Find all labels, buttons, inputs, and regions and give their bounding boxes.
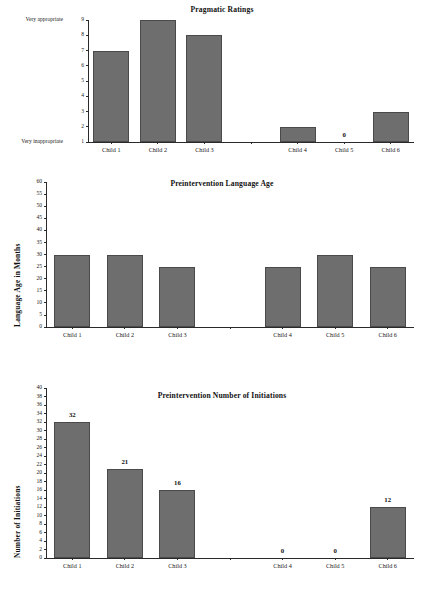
y-axis-tick-label: 10 <box>24 300 42 306</box>
y-axis-tick-label: 28 <box>24 436 42 442</box>
y-axis-label: Language Age in Months <box>13 244 22 327</box>
y-axis-tick-mark <box>44 507 46 508</box>
x-axis-tick-label: Child 5 <box>305 332 365 338</box>
y-axis-tick-label: 14 <box>24 496 42 502</box>
y-axis-tick-label: 10 <box>24 513 42 519</box>
y-axis-tick-mark <box>44 278 46 279</box>
y-axis-tick-mark <box>44 242 46 243</box>
x-axis-tick-label: Child 2 <box>95 563 155 569</box>
y-axis-tick-mark <box>44 194 46 195</box>
y-axis-tick-label: 15 <box>24 288 42 294</box>
y-axis-tick-mark <box>44 315 46 316</box>
y-axis-tick-mark <box>44 481 46 482</box>
y-axis-tick-label: 60 <box>24 179 42 185</box>
y-axis-tick-mark <box>86 35 88 36</box>
y-axis-tick-mark <box>44 464 46 465</box>
y-axis-tick-mark <box>86 111 88 112</box>
y-axis-tick-label: 25 <box>24 264 42 270</box>
y-axis-tick-label: 0 <box>24 324 42 330</box>
y-axis-tick-mark <box>86 50 88 51</box>
chart-title: Pragmatic Ratings <box>0 5 444 14</box>
y-axis-tick-label: 4 <box>24 538 42 544</box>
y-axis-tick-label: 24 <box>24 453 42 459</box>
y-axis-tick-mark <box>44 396 46 397</box>
y-axis-tick-mark <box>44 524 46 525</box>
x-axis-tick-label: Child 6 <box>358 332 418 338</box>
bar-value-label: 32 <box>42 412 102 419</box>
y-axis-tick-label: 38 <box>24 394 42 400</box>
bar <box>370 267 406 327</box>
y-axis-line <box>88 20 89 142</box>
y-axis-tick-mark <box>86 142 88 143</box>
y-axis-tick-label: 30 <box>24 252 42 258</box>
y-axis-tick-mark <box>44 254 46 255</box>
y-axis-tick-mark <box>44 206 46 207</box>
y-axis-tick-label: 6 <box>24 530 42 536</box>
y-axis-tick-mark <box>86 65 88 66</box>
y-axis-tick-label: 16 <box>24 487 42 493</box>
y-axis-line <box>46 182 47 327</box>
y-axis-tick-label: 40 <box>24 385 42 391</box>
bar <box>186 35 222 142</box>
y-axis-tick-label: 0 <box>24 555 42 561</box>
y-axis-tick-label: 32 <box>24 419 42 425</box>
y-axis-tick-mark <box>86 20 88 21</box>
y-axis-tick-label: 30 <box>24 428 42 434</box>
y-axis-tick-label: 5 <box>24 312 42 318</box>
x-axis-tick-mark <box>282 327 283 329</box>
y-axis-tick-mark <box>44 422 46 423</box>
y-axis-tick-label: 8 <box>24 521 42 527</box>
y-axis-tick-label: 2 <box>24 547 42 553</box>
y-axis-tick-mark <box>44 290 46 291</box>
y-axis-max-caption: Very appropriate <box>0 17 63 23</box>
bar <box>159 490 195 558</box>
bar-value-label: 0 <box>305 548 365 555</box>
x-axis-tick-label: Child 3 <box>147 332 207 338</box>
y-axis-tick-label: 9 <box>66 17 84 23</box>
bar <box>140 20 176 142</box>
y-axis-tick-label: 2 <box>66 124 84 130</box>
x-axis-tick-mark <box>111 142 112 144</box>
y-axis-tick-mark <box>44 549 46 550</box>
y-axis-tick-mark <box>44 447 46 448</box>
bar <box>373 112 409 143</box>
y-axis-tick-mark <box>86 81 88 82</box>
x-axis-tick-label: Child 6 <box>361 147 421 153</box>
x-axis-tick-mark <box>282 558 283 560</box>
bar-value-label: 0 <box>253 548 313 555</box>
y-axis-tick-label: 36 <box>24 402 42 408</box>
bar <box>107 469 143 558</box>
y-axis-tick-label: 18 <box>24 479 42 485</box>
x-axis-tick-label: Child 6 <box>358 563 418 569</box>
y-axis-tick-label: 3 <box>66 109 84 115</box>
bar <box>159 267 195 327</box>
x-axis-tick-mark <box>230 558 231 560</box>
y-axis-label: Number of Initiations <box>13 485 22 558</box>
chart-preintervention-language-age: Preintervention Language Age Language Ag… <box>0 172 444 368</box>
x-axis-tick-mark <box>177 327 178 329</box>
y-axis-tick-mark <box>86 96 88 97</box>
x-axis-tick-label: Child 1 <box>42 332 102 338</box>
y-axis-tick-mark <box>44 182 46 183</box>
y-axis-tick-label: 12 <box>24 504 42 510</box>
bar <box>54 255 90 328</box>
y-axis-tick-label: 6 <box>66 63 84 69</box>
y-axis-tick-label: 55 <box>24 191 42 197</box>
y-axis-tick-label: 5 <box>66 78 84 84</box>
y-axis-tick-mark <box>44 498 46 499</box>
x-axis-tick-label: Child 3 <box>174 147 234 153</box>
y-axis-tick-mark <box>86 126 88 127</box>
y-axis-tick-label: 7 <box>66 48 84 54</box>
bar-value-label: 21 <box>95 459 155 466</box>
y-axis-tick-label: 20 <box>24 276 42 282</box>
x-axis-tick-label: Child 4 <box>253 332 313 338</box>
y-axis-tick-mark <box>44 230 46 231</box>
bar <box>317 255 353 328</box>
x-axis-tick-mark <box>387 327 388 329</box>
x-axis-tick-mark <box>124 558 125 560</box>
x-axis-tick-mark <box>157 142 158 144</box>
x-axis-tick-mark <box>335 558 336 560</box>
x-axis-tick-mark <box>335 327 336 329</box>
y-axis-tick-label: 8 <box>66 32 84 38</box>
bar <box>93 51 129 143</box>
